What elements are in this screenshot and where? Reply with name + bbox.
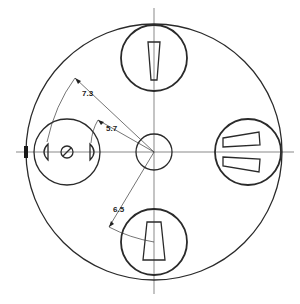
dimension-6-5: 6.5 <box>109 152 154 242</box>
svg-text:7.3: 7.3 <box>82 89 94 98</box>
edge-marker <box>24 146 28 158</box>
right-slot-upper <box>223 132 260 147</box>
svg-text:5.7: 5.7 <box>106 124 118 133</box>
dimension-7-3: 7.3 <box>47 78 154 152</box>
right-slot-lower <box>223 157 260 172</box>
svg-text:6.5: 6.5 <box>113 205 125 214</box>
left-insert <box>34 119 100 185</box>
technical-drawing: 7.3 5.7 6.5 <box>0 0 300 304</box>
